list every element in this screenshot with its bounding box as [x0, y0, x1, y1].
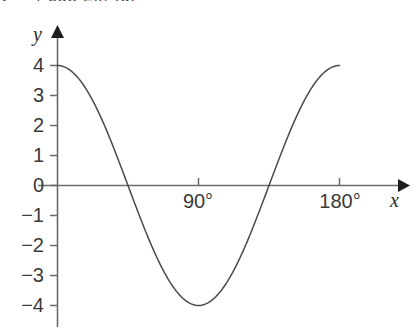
y-tick-label-4: 4	[22, 55, 44, 75]
y-axis-arrowhead	[51, 25, 64, 38]
y-tick-label-1: 1	[22, 145, 44, 165]
y-tick-label-neg3: −3	[12, 265, 44, 285]
x-axis-label: x	[390, 190, 399, 210]
y-tick-label-neg4: −4	[12, 295, 44, 315]
graph-figure: y = 4 cos 2x, for	[0, 0, 416, 333]
y-axis-label: y	[33, 24, 42, 44]
x-tick-label-90: 90°	[163, 191, 233, 211]
coordinate-plot	[0, 0, 416, 333]
x-tick-label-180: 180°	[298, 191, 382, 211]
y-tick-label-2: 2	[22, 115, 44, 135]
y-tick-label-0: 0	[22, 175, 44, 195]
y-tick-label-neg2: −2	[12, 235, 44, 255]
y-tick-label-neg1: −1	[12, 205, 44, 225]
x-axis-arrowhead	[398, 179, 410, 192]
y-tick-label-3: 3	[22, 85, 44, 105]
